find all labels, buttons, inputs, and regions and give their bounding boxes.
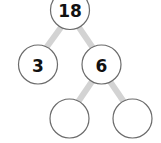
node-blank-right[interactable] xyxy=(113,99,152,138)
connector-18-to-3 xyxy=(46,26,62,48)
node-factor-left: 3 xyxy=(19,45,58,84)
node-root-label: 18 xyxy=(58,1,82,21)
node-factor-right-label: 6 xyxy=(96,56,108,76)
connector-18-to-6 xyxy=(78,26,93,48)
factor-tree-diagram: 18 3 6 xyxy=(0,0,161,143)
node-factor-left-label: 3 xyxy=(32,56,44,76)
node-root: 18 xyxy=(51,0,90,30)
node-factor-right: 6 xyxy=(82,45,121,84)
node-blank-right-circle[interactable] xyxy=(113,99,152,138)
node-blank-left[interactable] xyxy=(50,99,89,138)
connector-6-to-right-blank xyxy=(109,80,124,102)
connector-6-to-left-blank xyxy=(78,80,93,102)
node-blank-left-circle[interactable] xyxy=(50,99,89,138)
